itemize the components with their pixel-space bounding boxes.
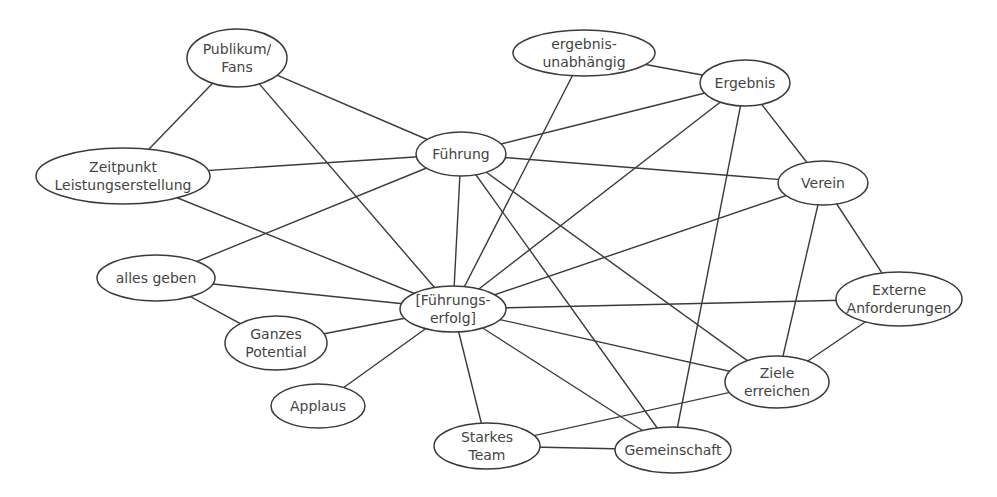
node-label: Ergebnis xyxy=(715,75,776,91)
node-label: unabhängig xyxy=(542,54,625,70)
node-label: [Führungs- xyxy=(415,292,490,308)
node-externe: ExterneAnforderungen xyxy=(836,272,962,326)
node-label: Team xyxy=(467,447,505,463)
node-label: ergebnis- xyxy=(551,36,617,52)
node-label: Ganzes xyxy=(250,326,302,342)
node-label: Starkes xyxy=(461,429,513,445)
edge-ergebnis-fuehrungserfolg xyxy=(453,83,745,309)
node-label: alles geben xyxy=(116,270,197,286)
node-ellipse xyxy=(187,29,287,87)
node-ergebnis: Ergebnis xyxy=(700,60,790,106)
node-publikum: Publikum/Fans xyxy=(187,29,287,87)
node-label: erfolg] xyxy=(430,310,476,326)
nodes-layer: Publikum/FansZeitpunktLeistungserstellun… xyxy=(36,29,962,473)
node-ergebnisunabhaengig: ergebnis-unabhängig xyxy=(513,30,655,76)
node-ganzes: GanzesPotential xyxy=(225,316,327,370)
edge-fuehrungserfolg-ziele xyxy=(453,309,777,382)
edge-publikum-fuehrungserfolg xyxy=(237,58,453,309)
node-gemeinschaft: Gemeinschaft xyxy=(615,427,731,473)
node-label: Fans xyxy=(221,59,253,75)
node-ellipse xyxy=(725,356,829,408)
node-starkes: StarkesTeam xyxy=(434,423,540,469)
edge-fuehrungserfolg-externe xyxy=(453,299,899,309)
node-ellipse xyxy=(225,316,327,370)
node-ellipse xyxy=(36,148,210,204)
edge-fuehrung-ziele xyxy=(461,154,777,382)
node-label: Führung xyxy=(432,146,489,162)
node-label: Verein xyxy=(801,175,845,191)
node-label: Zeitpunkt xyxy=(89,159,157,175)
node-label: Publikum/ xyxy=(203,41,272,57)
node-label: Applaus xyxy=(290,398,346,414)
node-label: Externe xyxy=(872,282,926,298)
node-applaus: Applaus xyxy=(271,384,365,428)
node-fuehrungserfolg: [Führungs-erfolg] xyxy=(400,286,506,332)
node-label: Anforderungen xyxy=(847,300,952,316)
edge-fuehrung-verein xyxy=(461,154,823,183)
node-allesgeben: alles geben xyxy=(97,255,215,301)
edge-verein-ziele xyxy=(777,183,823,382)
node-label: Potential xyxy=(245,344,306,360)
edge-ergebnis-fuehrung xyxy=(461,83,745,154)
node-ellipse xyxy=(836,272,962,326)
concept-network-diagram: Publikum/FansZeitpunktLeistungserstellun… xyxy=(0,0,997,497)
node-ziele: Zieleerreichen xyxy=(725,356,829,408)
node-fuehrung: Führung xyxy=(416,132,506,176)
node-verein: Verein xyxy=(778,161,868,205)
node-label: erreichen xyxy=(744,383,810,399)
node-label: Ziele xyxy=(760,365,795,381)
node-label: Leistungserstellung xyxy=(55,177,192,193)
node-label: Gemeinschaft xyxy=(624,442,722,458)
node-zeitpunkt: ZeitpunktLeistungserstellung xyxy=(36,148,210,204)
